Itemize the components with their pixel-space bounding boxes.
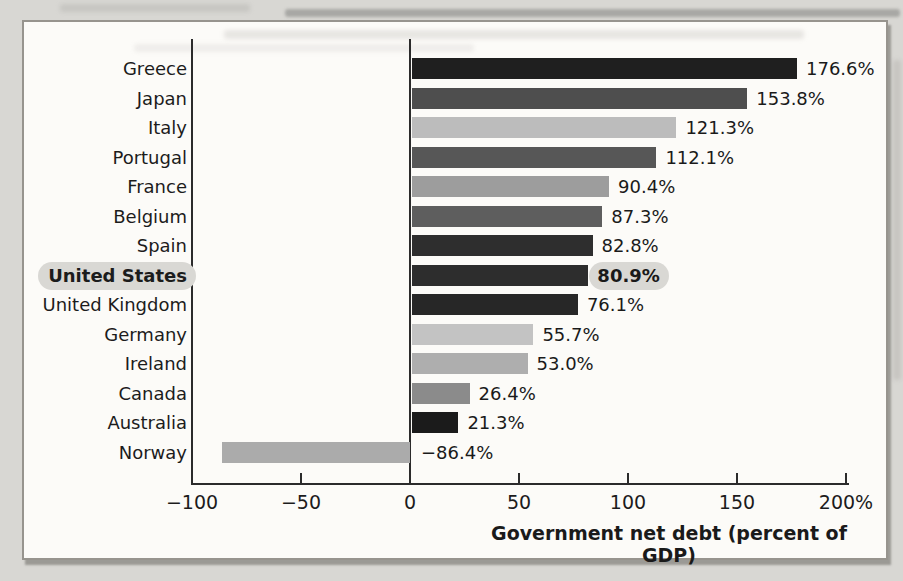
x-axis-title: Government net debt (percent of GDP): [489, 522, 849, 566]
bar-belgium: [412, 206, 602, 227]
bar-united-states: [412, 265, 588, 286]
x-tick-label--100: −100: [147, 491, 237, 513]
bar-canada: [412, 383, 470, 404]
value-label-greece: 176.6%: [806, 56, 875, 81]
x-tick-label--50: −50: [256, 491, 346, 513]
category-label-portugal: Portugal: [24, 145, 187, 170]
category-label-united-states: United States: [24, 263, 187, 288]
x-tick--50: [300, 473, 302, 483]
category-label-france: France: [24, 174, 187, 199]
bar-spain: [412, 235, 593, 256]
category-label-belgium: Belgium: [24, 204, 187, 229]
category-label-australia: Australia: [24, 410, 187, 435]
x-tick-200: [845, 473, 847, 483]
value-label-belgium: 87.3%: [611, 204, 668, 229]
bar-italy: [412, 117, 676, 138]
value-label-canada: 26.4%: [479, 381, 536, 406]
page-bleed-mark: [893, 60, 901, 380]
bar-chart: −100−50050100150200% Greece176.6%Japan15…: [24, 22, 886, 558]
value-label-australia: 21.3%: [467, 410, 524, 435]
value-label-norway: −86.4%: [421, 440, 493, 465]
x-tick-100: [627, 473, 629, 483]
page-bleed-mark: [285, 9, 900, 17]
bar-portugal: [412, 147, 656, 168]
page-bleed-mark: [60, 4, 250, 12]
x-tick-0: [409, 473, 411, 483]
value-label-japan: 153.8%: [756, 86, 825, 111]
x-tick-label-200: 200%: [801, 491, 891, 513]
x-tick-50: [518, 473, 520, 483]
bar-united-kingdom: [412, 294, 578, 315]
category-label-spain: Spain: [24, 233, 187, 258]
category-label-italy: Italy: [24, 115, 187, 140]
bar-norway: [222, 442, 410, 463]
zero-baseline: [409, 39, 411, 485]
category-label-greece: Greece: [24, 56, 187, 81]
bar-ireland: [412, 353, 528, 374]
category-label-norway: Norway: [24, 440, 187, 465]
category-label-ireland: Ireland: [24, 351, 187, 376]
axis-line-left-boundary: [191, 39, 193, 485]
x-tick-label-150: 150: [692, 491, 782, 513]
value-label-germany: 55.7%: [542, 322, 599, 347]
category-label-united-kingdom: United Kingdom: [24, 292, 187, 317]
x-tick--100: [191, 473, 193, 483]
bar-france: [412, 176, 609, 197]
figure-panel: −100−50050100150200% Greece176.6%Japan15…: [22, 20, 888, 560]
value-label-united-states: 80.9%: [597, 263, 668, 288]
bar-japan: [412, 88, 747, 109]
bar-greece: [412, 58, 797, 79]
x-tick-label-100: 100: [583, 491, 673, 513]
x-tick-label-50: 50: [474, 491, 564, 513]
value-label-italy: 121.3%: [685, 115, 754, 140]
bar-australia: [412, 412, 458, 433]
category-label-canada: Canada: [24, 381, 187, 406]
value-label-spain: 82.8%: [602, 233, 659, 258]
category-label-japan: Japan: [24, 86, 187, 111]
bar-germany: [412, 324, 533, 345]
x-tick-150: [736, 473, 738, 483]
scanned-page: −100−50050100150200% Greece176.6%Japan15…: [0, 0, 903, 581]
x-tick-label-0: 0: [365, 491, 455, 513]
value-label-portugal: 112.1%: [665, 145, 734, 170]
value-label-united-kingdom: 76.1%: [587, 292, 644, 317]
x-axis-line: [191, 483, 849, 485]
value-label-ireland: 53.0%: [537, 351, 594, 376]
category-label-germany: Germany: [24, 322, 187, 347]
value-label-france: 90.4%: [618, 174, 675, 199]
